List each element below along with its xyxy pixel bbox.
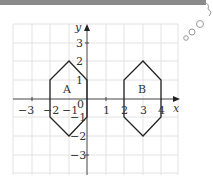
y-tick-label-neg1: −1	[70, 111, 86, 124]
x-tick-label-neg3: −3	[18, 104, 34, 117]
y-axis-label: y	[74, 21, 82, 34]
y-tick-label-2: 2	[76, 55, 83, 68]
y-tick-label-neg2: −2	[70, 130, 86, 143]
thought-bubble-icon	[184, 2, 211, 40]
x-tick-label-3: 3	[140, 104, 147, 117]
x-tick-label-4: 4	[158, 104, 165, 117]
y-tick-label-3: 3	[76, 37, 83, 50]
shape-b-label: B	[138, 83, 146, 96]
shape-a-label: A	[62, 83, 72, 96]
y-tick-label-1: 1	[76, 74, 83, 87]
y-axis-arrow-icon	[84, 24, 90, 31]
x-tick-label-neg2: −2	[43, 104, 59, 117]
coordinate-diagram: A B y x 0 −3 −2 −1 1 2 3 4 3 2 1 −1 −2 −…	[0, 0, 213, 181]
x-tick-label-1: 1	[103, 104, 110, 117]
axes	[13, 30, 175, 175]
x-tick-label-2: 2	[121, 104, 128, 117]
x-axis-label: x	[173, 102, 180, 115]
y-tick-label-neg3: −3	[70, 149, 86, 162]
